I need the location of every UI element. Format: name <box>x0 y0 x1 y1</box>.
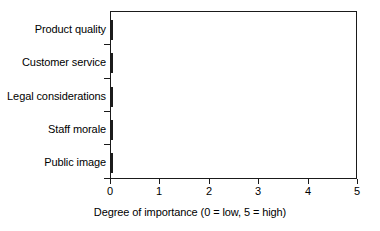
x-axis-ticklabel-1: 1 <box>144 185 174 197</box>
x-axis-tick-1 <box>159 179 160 184</box>
y-axis-label-4: Public image <box>44 152 106 172</box>
y-axis-label-1: Customer service <box>22 52 106 72</box>
x-axis-tick-3 <box>258 179 259 184</box>
bar-customer-service <box>111 53 113 73</box>
x-axis-ticklabel-2: 2 <box>194 185 224 197</box>
x-axis-ticklabel-3: 3 <box>243 185 273 197</box>
bar-chart: Product quality Customer service Legal c… <box>0 0 380 231</box>
x-axis-tick-0 <box>110 179 111 184</box>
bar-product-quality <box>111 20 113 40</box>
x-axis-ticklabel-0: 0 <box>95 185 125 197</box>
y-axis-label-3: Staff morale <box>48 119 106 139</box>
bar-public-image <box>111 153 113 173</box>
x-axis-title: Degree of importance (0 = low, 5 = high) <box>0 206 380 218</box>
x-axis-ticklabel-4: 4 <box>293 185 323 197</box>
x-axis-ticklabel-5: 5 <box>342 185 372 197</box>
y-axis-label-2: Legal considerations <box>7 86 106 106</box>
y-axis-label-0: Product quality <box>35 19 106 39</box>
x-axis-tick-5 <box>357 179 358 184</box>
bar-staff-morale <box>111 120 113 140</box>
x-axis-tick-2 <box>209 179 210 184</box>
x-axis-tick-4 <box>308 179 309 184</box>
bar-legal-considerations <box>111 87 113 107</box>
plot-area <box>110 11 357 179</box>
